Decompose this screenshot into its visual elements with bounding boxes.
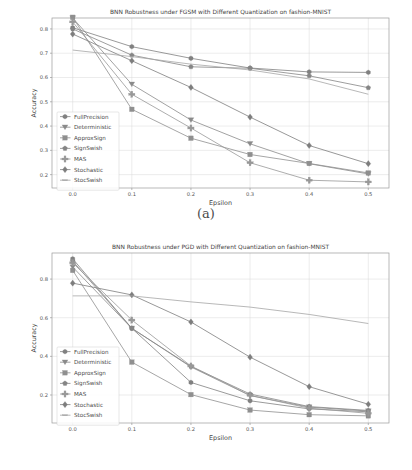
x-tick-label: 0.0 [69, 426, 77, 432]
series-marker [190, 125, 192, 131]
y-tick-label: 0.8 [40, 26, 48, 32]
chart-svg-pgd: BNN Robustness under PGD with Different … [0, 235, 412, 445]
series-line [73, 28, 369, 73]
series-marker [129, 58, 134, 64]
legend-label-deterministic[interactable]: Deterministic [74, 359, 111, 365]
x-tick-label: 0.2 [187, 426, 195, 432]
series-marker [189, 380, 193, 385]
series-marker [307, 412, 312, 417]
series-signswish [70, 26, 370, 89]
series-marker [367, 410, 369, 416]
series-marker [72, 260, 74, 266]
y-tick-label: 0.4 [40, 123, 49, 129]
series-marker [70, 268, 75, 273]
y-tick-label: 0.2 [40, 392, 48, 398]
legend-label-signswish[interactable]: SignSwish [74, 380, 103, 387]
chart-legend: FullPrecisionDeterministicApproxSignSign… [57, 347, 119, 425]
chart-title: BNN Robustness under PGD with Different … [112, 244, 329, 250]
legend-marker [64, 156, 66, 162]
series-marker [248, 408, 253, 413]
x-axis-label: Epsilon [209, 434, 232, 442]
series-marker [307, 161, 312, 166]
series-marker [366, 70, 370, 75]
legend-label-stocswish[interactable]: StocSwish [74, 412, 103, 418]
series-marker [130, 44, 134, 49]
subcaption-a: (a) [0, 206, 412, 221]
y-axis-label: Accuracy [30, 323, 38, 352]
x-tick-label: 0.0 [69, 191, 77, 197]
legend-label-approxsign[interactable]: ApproxSign [74, 370, 106, 377]
x-tick-label: 0.1 [128, 426, 136, 432]
series-marker [247, 142, 253, 147]
y-tick-label: 0.6 [40, 74, 48, 80]
figure-page: BNN Robustness under FGSM with Different… [0, 0, 412, 470]
series-marker [188, 118, 194, 123]
legend-marker [62, 180, 67, 181]
chart-legend: FullPrecisionDeterministicApproxSignSign… [57, 112, 119, 190]
series-marker [70, 31, 75, 37]
chart-figure-b: BNN Robustness under PGD with Different … [0, 235, 412, 470]
y-tick-label: 0.7 [40, 50, 48, 56]
x-tick-label: 0.4 [305, 191, 314, 197]
y-axis-label: Accuracy [30, 88, 38, 117]
legend-label-stocswish[interactable]: StocSwish [74, 177, 103, 183]
legend-label-signswish[interactable]: SignSwish [74, 145, 103, 152]
legend-label-stochastic[interactable]: Stochastic [74, 167, 103, 173]
series-marker [367, 179, 369, 185]
series-line [73, 296, 369, 324]
series-marker [131, 91, 133, 97]
legend-label-fullprecision[interactable]: FullPrecision [74, 349, 109, 355]
y-tick-label: 0.6 [40, 315, 48, 321]
series-marker [366, 161, 371, 167]
series-marker [248, 114, 253, 120]
legend-label-fullprecision[interactable]: FullPrecision [74, 114, 109, 120]
series-marker [307, 73, 312, 78]
legend-marker [62, 415, 67, 416]
y-tick-label: 0.2 [40, 172, 48, 178]
series-marker [189, 136, 194, 141]
series-marker [307, 384, 312, 390]
series-marker [248, 354, 253, 360]
chart-figure-a: BNN Robustness under FGSM with Different… [0, 0, 412, 235]
legend-label-mas[interactable]: MAS [74, 391, 87, 397]
series-marker [189, 319, 194, 325]
chart-svg-fgsm: BNN Robustness under FGSM with Different… [0, 0, 412, 210]
series-marker [130, 107, 135, 112]
y-tick-label: 0.5 [40, 99, 48, 105]
series-stocswish [73, 296, 369, 324]
series-marker [129, 82, 135, 87]
legend-label-stochastic[interactable]: Stochastic [74, 402, 103, 408]
series-marker [131, 317, 133, 323]
series-marker [248, 398, 252, 403]
series-marker [189, 84, 194, 90]
x-tick-label: 0.5 [364, 191, 372, 197]
x-tick-label: 0.5 [364, 426, 372, 432]
y-tick-label: 0.8 [40, 276, 48, 282]
series-marker [130, 360, 135, 365]
chart-title: BNN Robustness under FGSM with Different… [110, 9, 331, 15]
x-tick-label: 0.3 [246, 191, 254, 197]
y-tick-label: 0.4 [40, 353, 49, 359]
legend-label-deterministic[interactable]: Deterministic [74, 124, 111, 130]
series-marker [308, 177, 310, 183]
series-marker [72, 19, 74, 25]
legend-label-mas[interactable]: MAS [74, 156, 87, 162]
x-tick-label: 0.3 [246, 426, 254, 432]
series-marker [366, 401, 371, 407]
series-marker [249, 160, 251, 166]
legend-marker [63, 371, 68, 376]
y-tick-label: 0.3 [40, 147, 48, 153]
x-tick-label: 0.4 [305, 426, 314, 432]
series-marker [308, 405, 310, 411]
legend-marker [63, 349, 67, 354]
series-marker [189, 56, 193, 61]
series-marker [189, 64, 194, 69]
series-marker [366, 85, 371, 90]
series-marker [307, 142, 312, 148]
legend-marker [63, 114, 67, 119]
series-marker [190, 363, 192, 369]
series-marker [366, 171, 371, 176]
series-marker [129, 292, 134, 298]
series-line [73, 29, 369, 88]
legend-label-approxsign[interactable]: ApproxSign [74, 135, 106, 142]
